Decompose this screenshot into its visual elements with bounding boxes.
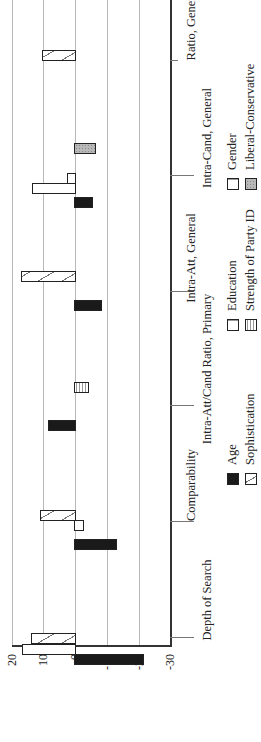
bar-age-intra-cand [74,197,93,208]
legend-swatch-age [227,473,239,485]
category-label: Intra-Att, General [184,213,199,303]
category-tick [170,60,178,61]
legend-item-gender: Gender [225,133,240,190]
legend-item-party-id: Strength of Party ID [243,209,258,331]
legend-swatch-gender [227,178,239,190]
legend-item-education: Education [225,260,240,331]
ytick-label: 20 [5,654,20,684]
ytick-label: 10 [36,654,51,684]
gridline-minus-20 [139,0,140,647]
legend-item-sophistication: Sophistication [243,393,258,485]
legend-item-liberal-conservative: Liberal-Conservative [243,64,258,190]
bar-age-primary [48,420,76,431]
bar-sophistication-intra-att [21,271,76,282]
bar-age-depth [74,654,144,665]
legend-swatch-education [227,319,239,331]
category-label: Depth of Search [200,559,215,640]
bar-age-intra-att [74,300,102,311]
category-label: Intra-Att/Cand Ratio, Primary [200,294,215,444]
bar-age-comparability [74,539,117,550]
bar-liberal-conservative-intra-cand [74,143,96,154]
category-tick [170,405,194,406]
category-label: Intra-Cand, General [200,88,215,188]
ytick-label: -30 [163,654,178,684]
bar-education-comparability [74,520,84,531]
rotated-chart-page: 20 10 0 -10 -20 -30 Depth of Search Comp… [0,0,261,742]
category-label: Comparability [184,449,199,521]
bar-party-id-primary [74,382,89,393]
legend-swatch-liberal-conservative [245,178,257,190]
legend-swatch-sophistication [245,473,257,485]
category-label: Ratio, General [184,0,199,60]
bar-sophistication-ratio [42,50,76,61]
bar-sophistication-depth [31,633,76,644]
category-tick [170,175,194,176]
legend-item-age: Age [225,444,240,485]
category-axis-line [170,0,172,647]
category-tick [170,637,194,638]
category-tick [170,521,194,522]
gridline-20 [12,0,13,647]
bar-education-depth [22,644,76,655]
legend-swatch-party-id [245,319,257,331]
bar-education-intra-cand [32,183,76,194]
bar-sophistication-comparability [40,510,76,521]
gridline-10 [43,0,44,647]
